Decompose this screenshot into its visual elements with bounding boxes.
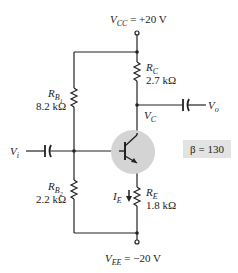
beta-badge: β = 130 [183,140,231,158]
ie-label: IE [113,190,122,207]
re-resistor [134,187,140,206]
re-value: 1.8 kΩ [146,199,176,211]
rb1-value: 8.2 kΩ [36,100,66,112]
vcc-terminal [135,31,139,35]
vo-label: Vo [208,99,219,116]
vee-terminal [135,240,139,244]
rb2-value: 2.2 kΩ [36,193,66,205]
transistor-highlight [111,130,155,174]
vcc-label: VCC = +20 V [110,13,167,30]
rb1-resistor [71,88,77,107]
vc-label: VC [144,109,156,126]
ie-arrow-icon [126,196,132,202]
rc-value: 2.7 kΩ [146,74,176,86]
circuit-schematic [0,0,238,273]
vee-label: VEE = −20 V [105,252,161,269]
rc-resistor [134,62,140,81]
vi-label: Vi [10,145,19,162]
rb2-resistor [71,180,77,199]
